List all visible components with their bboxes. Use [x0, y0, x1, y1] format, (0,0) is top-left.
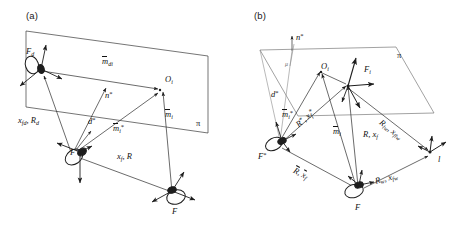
xf-R-line-a [80, 158, 172, 192]
mu-line-b [280, 44, 294, 141]
label-xf-R-a: xf, R [117, 152, 132, 162]
label-n-star-b: n* [296, 33, 304, 42]
label-plane-pi-b: π [397, 51, 401, 60]
label-Oi-b: Oi [321, 62, 329, 72]
mdi-arrow-a [42, 71, 158, 89]
label-mi-star-b: mi* [282, 110, 293, 120]
label-mu-b: μ [285, 61, 288, 67]
label-n-star-a: n* [105, 91, 113, 100]
panel-a: (a) [0, 0, 237, 234]
label-d-star-a: d* [88, 117, 96, 126]
plane-pi-a [26, 31, 208, 133]
frame-l-b [418, 136, 446, 154]
figure-root: (a) [0, 0, 475, 234]
mi-arrow-a [163, 92, 172, 192]
label-d-star-b: d* [271, 90, 279, 99]
panel-b: (b) [238, 0, 475, 234]
point-Oi-a [159, 89, 161, 91]
label-Oi-a: Oi [165, 75, 173, 85]
label-mi-star-a: mi* [113, 124, 124, 134]
label-l-b: l [438, 155, 440, 164]
plane-pi-b [260, 47, 434, 116]
Rlw-xflw-line-b [348, 88, 428, 150]
label-mi-b: mi [333, 127, 341, 137]
mi-star-arrow-b [280, 72, 320, 141]
label-xfd-Rd-a: xfd, Rd [18, 116, 39, 126]
label-mdi-a: mdi [102, 57, 113, 67]
label-Fd-a: Fd [26, 47, 34, 57]
Rbar-xfbar-line-b [282, 148, 356, 188]
camera-F-a [152, 172, 195, 207]
panel-b-graphics [238, 0, 475, 234]
camera-F-star-b [263, 122, 296, 154]
label-Fi-b: Fi [364, 65, 371, 75]
Oi-to-Fi-line-b [320, 72, 346, 84]
label-plane-pi-a: π [196, 119, 200, 128]
label-mi-a: mi [165, 110, 173, 120]
label-F-star-b: F* [258, 152, 266, 161]
label-F-a: F [172, 207, 177, 216]
label-F-b: F [355, 203, 360, 212]
label-F-star-a: F* [70, 148, 78, 157]
label-R-xf-b: R, xf [363, 130, 378, 140]
